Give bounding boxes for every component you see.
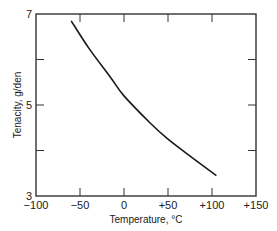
y-axis-ticks: 357: [26, 8, 256, 202]
y-axis-label: Tenacity, g/den: [12, 72, 23, 139]
x-axis-ticks: −100−500+50+100+150: [24, 14, 269, 211]
y-tick-label: 7: [26, 8, 32, 20]
tenacity-curve: [71, 21, 216, 176]
x-tick-label: 0: [121, 199, 127, 211]
x-tick-label: +150: [244, 199, 269, 211]
plot-border: [36, 14, 256, 196]
tenacity-temperature-chart: −100−500+50+100+150 357 Temperature, °C …: [0, 0, 277, 231]
data-series: [71, 21, 216, 176]
y-tick-label: 5: [26, 99, 32, 111]
x-axis-label: Temperature, °C: [110, 214, 183, 225]
y-tick-label: 3: [26, 190, 32, 202]
x-tick-label: +100: [200, 199, 225, 211]
plot-frame: [36, 14, 256, 196]
x-tick-label: −50: [71, 199, 90, 211]
x-tick-label: +50: [159, 199, 178, 211]
